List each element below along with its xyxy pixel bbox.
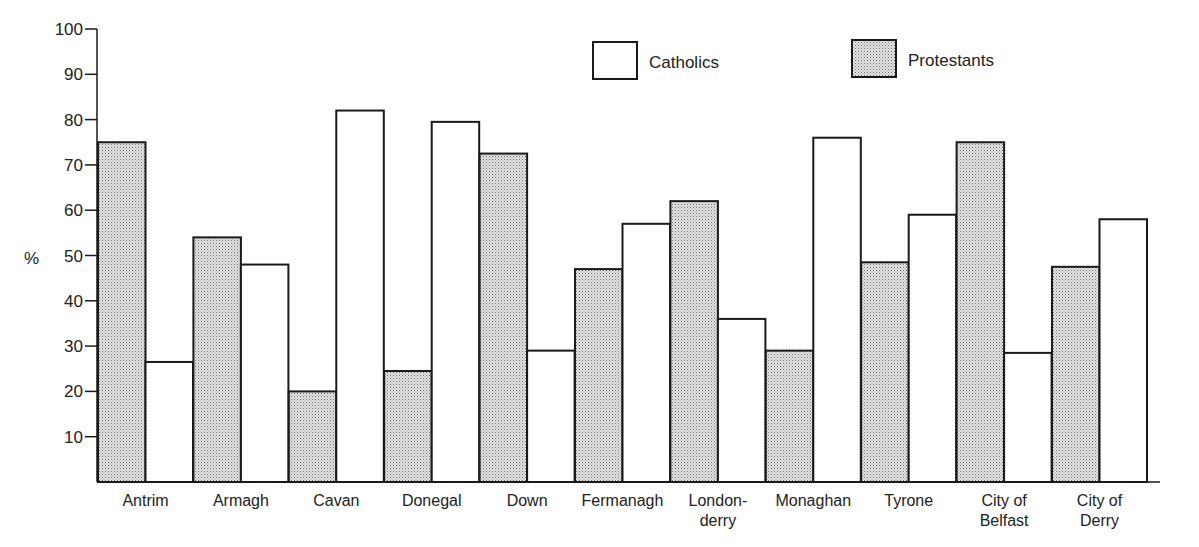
protestants-bar [193, 237, 241, 482]
legend-swatch-protestants [852, 40, 896, 77]
legend-label: Catholics [649, 53, 719, 72]
x-tick-label: Derry [1080, 512, 1119, 529]
catholics-bar [336, 111, 384, 482]
catholics-bar [718, 319, 766, 482]
bar-group [957, 142, 1052, 482]
protestants-bar [289, 391, 337, 482]
bar-group [861, 215, 956, 482]
catholics-bar [909, 215, 957, 482]
x-tick-label: City of [981, 492, 1027, 509]
y-tick-label: 60 [64, 201, 83, 220]
legend-swatch-catholics [593, 42, 637, 79]
x-tick-label: Armagh [213, 492, 269, 509]
y-tick-label: 20 [64, 382, 83, 401]
bar-group [766, 138, 861, 482]
y-tick-label: 90 [64, 65, 83, 84]
y-tick-label: 40 [64, 292, 83, 311]
bar-group [480, 154, 575, 482]
x-tick-label: London- [689, 492, 748, 509]
y-tick-label: 100 [55, 20, 83, 39]
y-tick-label: 50 [64, 247, 83, 266]
protestants-bar [861, 262, 909, 482]
x-tick-label: Monaghan [775, 492, 851, 509]
legend-label: Protestants [908, 51, 994, 70]
x-axis: AntrimArmaghCavanDonegalDownFermanaghLon… [97, 482, 1160, 529]
bar-chart: 102030405060708090100 AntrimArmaghCavanD… [0, 0, 1199, 547]
bar-group [193, 237, 288, 482]
protestants-bar [98, 142, 146, 482]
bars [98, 111, 1147, 482]
y-tick-label: 30 [64, 337, 83, 356]
bar-group [670, 201, 765, 482]
legend: CatholicsProtestants [593, 40, 994, 79]
bar-group [575, 224, 670, 482]
protestants-bar [384, 371, 432, 482]
protestants-bar [670, 201, 718, 482]
x-tick-label: Cavan [313, 492, 359, 509]
x-tick-label: City of [1077, 492, 1123, 509]
catholics-bar [1004, 353, 1052, 482]
x-tick-label: Donegal [402, 492, 462, 509]
x-tick-label: Belfast [980, 512, 1029, 529]
protestants-bar [480, 154, 527, 482]
y-tick-label: 80 [64, 111, 83, 130]
x-tick-label: Antrim [122, 492, 168, 509]
catholics-bar [813, 138, 861, 482]
protestants-bar [766, 351, 814, 482]
x-tick-label: Down [507, 492, 548, 509]
x-tick-label: Fermanagh [582, 492, 664, 509]
catholics-bar [623, 224, 671, 482]
y-axis-label: % [24, 249, 39, 268]
bar-group [289, 111, 384, 482]
protestants-bar [957, 142, 1005, 482]
bar-group [1052, 219, 1147, 482]
protestants-bar [575, 269, 623, 482]
x-tick-label: Tyrone [884, 492, 933, 509]
y-axis: 102030405060708090100 [55, 20, 97, 482]
x-tick-label: derry [700, 512, 736, 529]
bar-group [384, 122, 479, 482]
y-tick-label: 10 [64, 428, 83, 447]
y-tick-label: 70 [64, 156, 83, 175]
catholics-bar [527, 351, 575, 482]
protestants-bar [1052, 267, 1100, 482]
catholics-bar [1100, 219, 1148, 482]
catholics-bar [146, 362, 194, 482]
bar-group [98, 142, 193, 482]
catholics-bar [432, 122, 480, 482]
catholics-bar [241, 265, 289, 482]
